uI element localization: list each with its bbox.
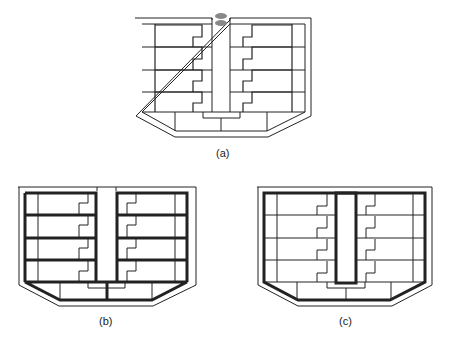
panel-a xyxy=(135,18,311,137)
panel-b xyxy=(18,187,196,306)
stair-marker-a xyxy=(215,13,227,26)
panel-label-c: (c) xyxy=(339,315,352,327)
panel-label-b: (b) xyxy=(99,315,112,327)
diagram-canvas xyxy=(0,0,454,337)
panel-label-a: (a) xyxy=(216,147,229,159)
panel-c xyxy=(257,187,432,306)
